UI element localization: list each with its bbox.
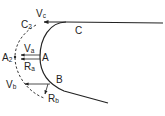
label-vb: Vb xyxy=(6,79,17,90)
label-a2: A2 xyxy=(2,52,13,63)
point-a2-dot xyxy=(14,56,16,58)
label-ra: Ra xyxy=(24,61,35,72)
label-a: A xyxy=(42,52,49,63)
label-c: C xyxy=(75,25,82,36)
label-c2: C2 xyxy=(21,19,32,30)
label-vc: Vc xyxy=(36,8,47,19)
label-b: B xyxy=(56,74,63,85)
label-va: Va xyxy=(24,43,35,54)
diagram-canvas: Vc C2 C Va A2 A Ra B Vb Rb xyxy=(0,0,165,116)
label-rb: Rb xyxy=(48,93,59,104)
body-outline xyxy=(40,22,163,103)
